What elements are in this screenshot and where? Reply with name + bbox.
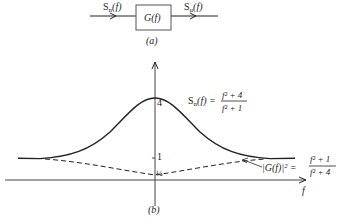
caption-b: (b): [148, 204, 160, 216]
transfer-leader-arrow: [243, 160, 262, 167]
transfer-numerator: f² + 1: [310, 154, 330, 164]
tick-label-1: 1: [157, 151, 162, 162]
caption-a: (a): [146, 35, 158, 47]
input-psd-denominator: f² + 1: [222, 103, 242, 113]
psd-plot: f 4 1 ¼ Sn(f) = f² + 4 f² + 1 |G(f)|² = …: [5, 62, 336, 216]
diagram-canvas: Sn(f) G(f) Su(f) (a) f 4 1 ¼ Sn(f) = f² …: [0, 0, 338, 224]
transfer-denominator: f² + 4: [310, 167, 331, 177]
input-psd-label: Sn(f) =: [188, 95, 216, 108]
block-diagram: Sn(f) G(f) Su(f) (a): [90, 1, 218, 47]
output-label: Su(f): [184, 1, 203, 14]
input-label: Sn(f): [103, 1, 122, 14]
transfer-label: |G(f)|² =: [262, 162, 296, 174]
tick-label-quarter: ¼: [156, 168, 163, 178]
input-psd-numerator: f² + 4: [222, 90, 243, 100]
block-label: G(f): [144, 12, 161, 24]
x-axis-label: f: [302, 185, 306, 196]
